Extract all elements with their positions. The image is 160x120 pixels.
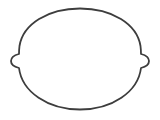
shape-outline — [11, 9, 149, 110]
lemon-outline-icon — [0, 0, 160, 120]
drawing-canvas — [0, 0, 160, 120]
